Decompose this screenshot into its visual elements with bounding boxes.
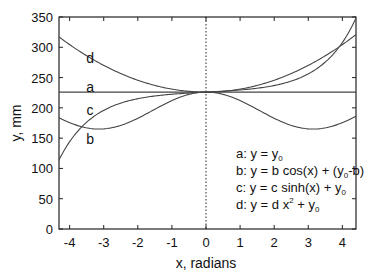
curve-label-b: b xyxy=(86,131,94,147)
y-tick-label: 100 xyxy=(31,161,53,176)
y-tick-label: 250 xyxy=(31,71,53,86)
x-tick-label: -3 xyxy=(98,235,110,250)
y-tick-label: 50 xyxy=(39,192,53,207)
axis-ticks: -4-3-2-101234050100150200250300350 xyxy=(31,10,356,250)
x-tick-label: 3 xyxy=(305,235,312,250)
y-tick-label: 150 xyxy=(31,131,53,146)
curve-labels: dacb xyxy=(86,50,94,148)
curve-label-a: a xyxy=(86,79,94,95)
curve-label-d: d xyxy=(86,50,94,66)
legend: a: y = y0b: y = b cos(x) + (y0-b)c: y = … xyxy=(236,146,364,214)
legend-entry-b: b: y = b cos(x) + (y0-b) xyxy=(236,163,364,180)
y-tick-label: 300 xyxy=(31,40,53,55)
line-chart: -4-3-2-101234050100150200250300350 dacb … xyxy=(0,0,367,278)
x-tick-label: -2 xyxy=(132,235,144,250)
y-tick-label: 0 xyxy=(46,222,53,237)
y-axis-label: y, mm xyxy=(8,104,24,141)
legend-entry-d: d: y = d x2 + y0 xyxy=(236,196,320,214)
x-axis-label: x, radians xyxy=(176,255,237,271)
legend-entry-c: c: y = c sinh(x) + y0 xyxy=(236,180,346,197)
x-tick-label: 4 xyxy=(339,235,346,250)
y-tick-label: 200 xyxy=(31,101,53,116)
x-tick-label: -4 xyxy=(64,235,76,250)
legend-entry-a: a: y = y0 xyxy=(236,146,283,163)
y-tick-label: 350 xyxy=(31,10,53,25)
x-tick-label: 1 xyxy=(236,235,243,250)
curve-label-c: c xyxy=(87,102,94,118)
x-tick-label: -1 xyxy=(166,235,178,250)
x-tick-label: 0 xyxy=(202,235,209,250)
x-tick-label: 2 xyxy=(271,235,278,250)
